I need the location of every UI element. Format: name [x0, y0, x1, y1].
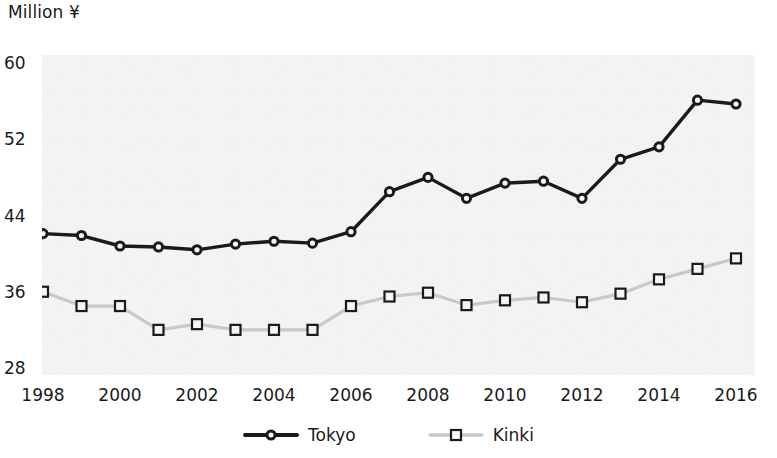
circle-marker	[308, 239, 316, 247]
square-marker	[577, 297, 587, 307]
line-chart-figure: Million ¥ 6052443628 1998200020022004200…	[0, 0, 777, 458]
circle-marker	[462, 194, 470, 202]
x-tick-label: 2008	[406, 385, 449, 405]
circle-marker	[154, 243, 162, 251]
circle-marker	[385, 188, 393, 196]
circle-marker	[693, 96, 701, 104]
circle-marker	[578, 194, 586, 202]
x-tick-label: 2004	[252, 385, 295, 405]
y-tick-label: 44	[4, 206, 26, 226]
square-marker	[346, 301, 356, 311]
y-tick-label: 60	[4, 53, 26, 73]
circle-marker	[231, 240, 239, 248]
square-marker	[154, 325, 164, 335]
y-tick-label: 52	[4, 129, 26, 149]
circle-marker	[424, 173, 432, 181]
x-tick-label: 2016	[714, 385, 757, 405]
circle-marker	[77, 231, 85, 239]
square-marker	[77, 301, 87, 311]
x-tick-label: 1998	[21, 385, 64, 405]
circle-marker	[616, 155, 624, 163]
square-marker	[115, 301, 125, 311]
circle-marker	[501, 179, 509, 187]
square-marker	[192, 319, 202, 329]
circle-marker	[539, 177, 547, 185]
circle-marker	[243, 426, 299, 444]
plot-area	[42, 55, 755, 375]
x-tick-label: 2010	[483, 385, 526, 405]
x-tick-label: 2014	[637, 385, 680, 405]
square-marker	[308, 325, 318, 335]
square-marker	[654, 274, 664, 284]
circle-marker	[347, 228, 355, 236]
square-marker	[428, 426, 484, 444]
square-marker	[385, 292, 395, 302]
square-marker	[423, 288, 433, 298]
square-marker	[539, 292, 549, 302]
legend-label: Kinki	[493, 425, 534, 445]
circle-marker	[732, 100, 740, 108]
y-tick-label: 28	[4, 358, 26, 378]
square-marker	[693, 264, 703, 274]
series-kinki	[42, 253, 741, 334]
y-tick-label: 36	[4, 282, 26, 302]
square-marker	[616, 289, 626, 299]
square-marker	[269, 325, 279, 335]
circle-marker	[655, 143, 663, 151]
square-marker	[42, 287, 48, 297]
square-marker	[500, 295, 510, 305]
x-tick-label: 2002	[175, 385, 218, 405]
series-line	[43, 100, 736, 250]
circle-marker	[193, 246, 201, 254]
square-marker	[731, 253, 741, 263]
square-marker	[231, 325, 241, 335]
legend-label: Tokyo	[308, 425, 356, 445]
series-canvas	[42, 55, 755, 375]
circle-marker	[270, 237, 278, 245]
x-tick-label: 2006	[329, 385, 372, 405]
circle-marker	[42, 230, 47, 238]
circle-marker	[116, 242, 124, 250]
square-marker	[462, 300, 472, 310]
legend-item-tokyo[interactable]: Tokyo	[243, 425, 356, 445]
x-tick-label: 2000	[98, 385, 141, 405]
chart-legend: TokyoKinki	[0, 425, 777, 445]
legend-item-kinki[interactable]: Kinki	[428, 425, 534, 445]
series-tokyo	[42, 96, 740, 254]
x-tick-label: 2012	[560, 385, 603, 405]
